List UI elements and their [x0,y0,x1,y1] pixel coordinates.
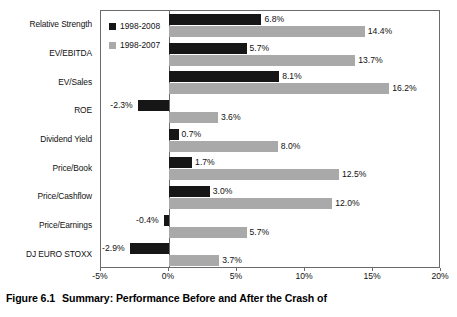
category-axis-labels: Relative StrengthEV/EBITDAEV/SalesROEDiv… [0,10,96,268]
legend-item-label: 1998-2008 [120,21,160,31]
bar-value-label: -0.4% [136,215,158,226]
x-tick-label: 15% [363,271,380,281]
bar-value-label: 5.7% [250,43,270,54]
bar [169,43,247,54]
x-tick-label: 5% [230,271,242,281]
bar-value-label: 6.8% [264,14,284,25]
bar-value-label: 12.0% [335,198,359,209]
bar-value-label: 3.6% [221,112,241,123]
category-label: EV/Sales [0,77,92,87]
bar [169,198,332,209]
legend-item-label: 1998-2007 [120,40,160,50]
category-label: EV/EBITDA [0,48,92,58]
bar-value-label: 3.7% [222,255,242,266]
bar [169,14,261,25]
bar [169,112,218,123]
category-label: Dividend Yield [0,134,92,144]
category-label: Price/Cashflow [0,191,92,201]
x-tick-label: 20% [431,271,448,281]
bar-value-label: 14.4% [368,26,392,37]
bar [138,100,169,111]
bar [169,26,365,37]
bar [169,141,278,152]
category-label: Relative Strength [0,19,92,29]
legend-swatch-icon [109,23,116,30]
bar [130,243,169,254]
x-tick-label: 10% [295,271,312,281]
category-label: DJ EURO STOXX [0,249,92,259]
x-axis: -5%0%5%10%15%20% [100,268,440,286]
bar-value-label: 12.5% [342,169,366,180]
category-label: Price/Book [0,163,92,173]
bar [164,215,169,226]
bar [169,129,179,140]
bar-value-label: 16.2% [392,83,416,94]
figure-number: Figure 6.1 [6,292,55,304]
figure-caption-text: Summary: Performance Before and After th… [62,292,327,304]
bar [169,83,389,94]
bar-value-label: 8.0% [281,141,301,152]
bar-value-label: 3.0% [213,186,233,197]
bar-value-label: 0.7% [182,129,202,140]
category-label: Price/Earnings [0,220,92,230]
category-label: ROE [0,105,92,115]
bar-value-label: 5.7% [250,227,270,238]
bar [169,255,219,266]
bar-value-label: 1.7% [195,157,215,168]
bar [169,169,339,180]
bar [169,71,279,82]
figure-caption: Figure 6.1Summary: Performance Before an… [6,292,454,304]
bar-value-label: 13.7% [358,55,382,66]
bar-value-label: 8.1% [282,71,302,82]
bar-value-label: -2.9% [102,243,124,254]
x-tick-label: -5% [92,271,107,281]
bar [169,55,355,66]
x-tick-label: 0% [162,271,174,281]
figure-container: Relative StrengthEV/EBITDAEV/SalesROEDiv… [0,0,457,317]
plot-area: 1998-2008 1998-2007 6.8%5.7%8.1%-2.3%0.7… [100,10,440,268]
bar-value-label: -2.3% [110,100,132,111]
bar [169,157,192,168]
legend-swatch-icon [109,42,116,49]
bar [169,186,210,197]
bar [169,227,247,238]
